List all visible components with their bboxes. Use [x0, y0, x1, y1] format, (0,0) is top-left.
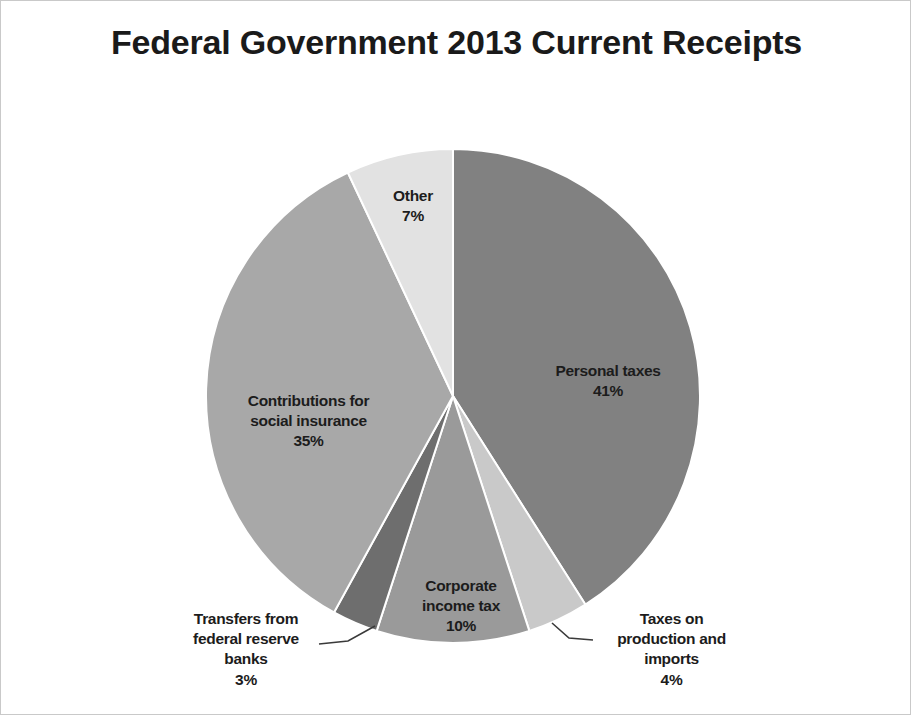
slice-label-personal-taxes: Personal taxes 41% [513, 341, 703, 422]
slice-label-contributions-social-insurance-percent: 35% [206, 431, 411, 451]
slice-label-transfers-federal-reserve-banks-name: Transfers from federal reserve banks [193, 610, 299, 667]
slice-label-transfers-federal-reserve-banks-percent: 3% [141, 670, 351, 690]
slice-label-corporate-income-tax: Corporate income tax 10% [381, 556, 541, 657]
slice-label-corporate-income-tax-percent: 10% [381, 616, 541, 636]
slice-label-corporate-income-tax-name: Corporate income tax [422, 577, 500, 614]
slice-label-personal-taxes-name: Personal taxes [555, 362, 660, 379]
slice-label-other-percent: 7% [353, 206, 473, 226]
slice-label-personal-taxes-percent: 41% [513, 381, 703, 401]
slice-label-contributions-social-insurance-name: Contributions for social insurance [248, 392, 369, 429]
chart-figure: Federal Government 2013 Current Receipts… [0, 0, 911, 715]
slice-label-taxes-production-imports-name: Taxes on production and imports [617, 610, 726, 667]
slice-label-transfers-federal-reserve-banks: Transfers from federal reserve banks 3% [141, 589, 351, 710]
slice-label-taxes-production-imports-percent: 4% [579, 670, 764, 690]
slice-label-taxes-production-imports: Taxes on production and imports 4% [579, 589, 764, 710]
slice-label-other-name: Other [393, 187, 433, 204]
slice-label-contributions-social-insurance: Contributions for social insurance 35% [206, 371, 411, 472]
slice-label-other: Other 7% [353, 166, 473, 247]
